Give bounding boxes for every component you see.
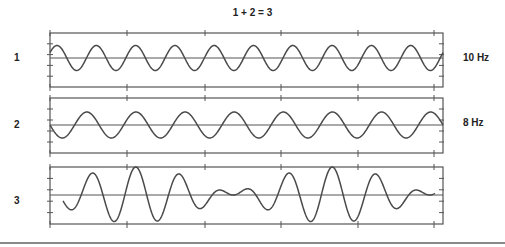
panel-1-plot xyxy=(47,30,444,91)
waveform-figure: 1 + 2 = 3 1 10 Hz 2 8 Hz 3 xyxy=(0,0,505,247)
waveform-plots xyxy=(0,0,505,247)
panel-3-plot xyxy=(47,164,444,228)
panel-2-plot xyxy=(47,95,444,157)
bottom-divider xyxy=(0,242,505,244)
